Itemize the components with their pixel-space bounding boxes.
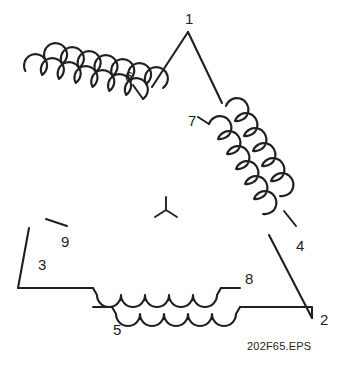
edge-apex-to-left-coil [152, 32, 188, 87]
wye-symbol [155, 197, 177, 217]
terminal-label-9: 9 [61, 234, 69, 249]
lead-line-9 [46, 219, 67, 226]
terminal-label-1: 1 [185, 11, 193, 26]
terminal-label-4: 4 [296, 238, 304, 253]
winding-diagram: 1 2 3 4 5 6 7 8 9 202F65.EPS [0, 0, 340, 365]
coil-bottom-upper [93, 288, 221, 307]
coil-bottom-lower [112, 307, 240, 326]
lead-line-6 [133, 85, 143, 99]
terminal-label-5: 5 [113, 322, 121, 337]
terminal-label-7: 7 [188, 113, 196, 128]
terminal-label-6: 6 [125, 69, 133, 84]
edge-right-coil-to-vertex-2 [269, 235, 312, 318]
figure-caption: 202F65.EPS [247, 340, 311, 352]
edge-apex-to-right-coil [188, 32, 222, 103]
edge-left-coil-to-vertex-3 [18, 228, 29, 288]
bottom-lower-winding [93, 307, 312, 326]
bottom-upper-winding [18, 288, 240, 307]
terminal-label-2: 2 [320, 312, 328, 327]
winding-schematic-svg [0, 0, 340, 365]
terminal-label-3: 3 [38, 257, 46, 272]
lead-line-4 [284, 211, 296, 226]
lead-line-7 [198, 117, 209, 124]
right-leg-outer-winding [226, 98, 296, 226]
terminal-label-8: 8 [245, 271, 253, 286]
edge-bottom-coil-to-vertex-2 [240, 307, 312, 318]
